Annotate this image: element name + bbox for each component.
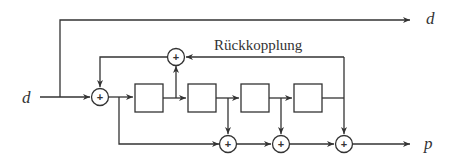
svg-text:+: + bbox=[225, 138, 231, 150]
output-label: p bbox=[423, 134, 433, 153]
input-adder: + bbox=[92, 89, 109, 106]
register-2 bbox=[188, 84, 216, 112]
svg-text:+: + bbox=[278, 138, 284, 150]
bypass-line bbox=[60, 20, 410, 97]
feedback-to-input-adder bbox=[100, 57, 168, 87]
register-1 bbox=[135, 84, 163, 112]
register-3 bbox=[241, 84, 269, 112]
feedback-label: Rückkopplung bbox=[214, 37, 303, 53]
svg-text:+: + bbox=[173, 51, 179, 63]
output-adder-2: + bbox=[273, 136, 290, 153]
shift-register-diagram: d d + + Rückkopplung + + + bbox=[0, 0, 452, 162]
output-adder-3: + bbox=[336, 136, 353, 153]
output-adder-1: + bbox=[220, 136, 237, 153]
feedback-adder: + bbox=[168, 49, 185, 66]
register-4 bbox=[294, 84, 322, 112]
top-output-label: d bbox=[426, 9, 435, 28]
svg-text:+: + bbox=[97, 91, 103, 103]
input-label: d bbox=[22, 88, 31, 107]
svg-text:+: + bbox=[341, 138, 347, 150]
